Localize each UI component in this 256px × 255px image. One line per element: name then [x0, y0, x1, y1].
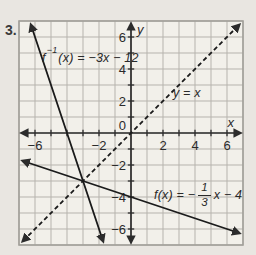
x-axis-label: x — [227, 115, 235, 130]
f-inverse-exponent: −1 — [47, 45, 58, 55]
f-inverse-equation-label: f−1(x) = −3x − 12 — [42, 50, 139, 65]
identity-equation-label: y = x — [173, 86, 201, 100]
fraction-one-third: 1 3 — [198, 182, 211, 209]
fraction-numerator: 1 — [198, 182, 211, 196]
worksheet-page: 3. −6−22466420−2−4−6xy f−1(x) = −3x − 12… — [0, 0, 256, 255]
y-tick-label: 2 — [119, 94, 126, 109]
y-tick-label: −2 — [111, 158, 126, 173]
f-equation-post: x − 4 — [214, 188, 242, 202]
f-inverse-expression: (x) = −3x − 12 — [58, 51, 138, 65]
x-tick-label: −6 — [28, 138, 43, 153]
x-tick-label: −2 — [92, 138, 107, 153]
x-tick-label: 6 — [223, 138, 230, 153]
x-tick-label: 2 — [159, 138, 166, 153]
y-tick-label: 0 — [119, 118, 126, 133]
f-inverse-fname: f — [42, 51, 46, 65]
f-equation-pre: f(x) = − — [154, 188, 195, 202]
y-tick-label: 6 — [119, 30, 126, 45]
y-tick-label: −6 — [111, 222, 126, 237]
fraction-denominator: 3 — [201, 196, 208, 209]
coordinate-plane: −6−22466420−2−4−6xy — [0, 0, 256, 255]
x-tick-label: 4 — [191, 138, 198, 153]
f-equation-label: f(x) = − 1 3 x − 4 — [154, 181, 242, 209]
